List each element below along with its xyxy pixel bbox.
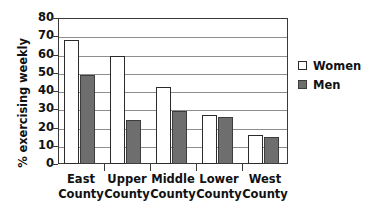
y-axis-tick-labels: 80706050403020100 (28, 11, 54, 166)
category-line-1: Lower (199, 172, 238, 186)
category-line-2: County (104, 187, 150, 202)
y-axis-tick-mark (51, 55, 58, 56)
x-axis-category-label: LowerCounty (196, 172, 242, 201)
legend-swatch-men-icon (298, 80, 307, 89)
chart-legend: Women Men (298, 58, 372, 96)
bar-men (80, 75, 95, 164)
category-line-1: West (249, 172, 281, 186)
category-line-2: County (58, 187, 104, 202)
category-line-1: East (67, 172, 95, 186)
x-axis-category-labels: EastCountyUpperCountyMiddleCountyLowerCo… (58, 172, 288, 216)
y-axis-tick-mark (51, 146, 58, 147)
legend-swatch-women-icon (298, 61, 307, 70)
y-axis-tick-mark (51, 73, 58, 74)
bar-women (248, 135, 263, 164)
x-axis-category-label: UpperCounty (104, 172, 150, 201)
bar-group (202, 18, 233, 164)
legend-entry-women: Women (298, 58, 372, 73)
legend-entry-men: Men (298, 77, 372, 92)
category-line-1: Upper (107, 172, 146, 186)
bar-group (156, 18, 187, 164)
bar-men (172, 111, 187, 164)
x-axis-tick-mark (104, 164, 105, 171)
bars-layer (58, 18, 288, 164)
legend-label-women: Women (313, 59, 361, 73)
category-line-2: County (196, 187, 242, 202)
x-axis-tick-mark (196, 164, 197, 171)
bar-women (110, 56, 125, 164)
bar-men (126, 120, 141, 164)
y-axis-tick-mark (51, 164, 58, 165)
x-axis-tick-mark (242, 164, 243, 171)
x-axis-category-label: MiddleCounty (150, 172, 196, 201)
category-line-1: Middle (151, 172, 195, 186)
y-axis-tick-mark (51, 18, 58, 19)
bar-women (64, 40, 79, 164)
category-line-2: County (150, 187, 196, 202)
bar-group (110, 18, 141, 164)
bar-group (248, 18, 279, 164)
legend-label-men: Men (313, 78, 340, 92)
bar-women (156, 87, 171, 164)
x-axis-tick-mark (150, 164, 151, 171)
x-axis-category-label: WestCounty (242, 172, 288, 201)
category-line-2: County (242, 187, 288, 202)
x-axis-category-label: EastCounty (58, 172, 104, 201)
bar-chart-figure: % exercising weekly 80706050403020100 Ea… (0, 0, 372, 218)
bar-men (264, 137, 279, 164)
bar-women (202, 115, 217, 164)
y-axis-tick-mark (51, 128, 58, 129)
y-axis-tick-mark (51, 109, 58, 110)
y-axis-tick-mark (51, 36, 58, 37)
bar-group (64, 18, 95, 164)
y-axis-tick-mark (51, 91, 58, 92)
bar-men (218, 117, 233, 164)
